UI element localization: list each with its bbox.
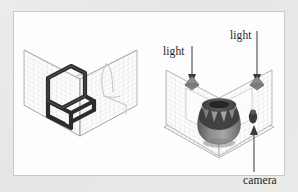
light-left-annotation — [185, 46, 199, 90]
camera-label: camera — [243, 175, 277, 187]
figure-panel: light light camera — [13, 11, 285, 176]
panel-inner: light light camera — [14, 12, 284, 175]
light-left-label: light — [163, 46, 185, 58]
figure-root: light light camera — [0, 0, 298, 192]
camera-body-marker — [249, 109, 257, 123]
light-right-label: light — [230, 30, 252, 42]
